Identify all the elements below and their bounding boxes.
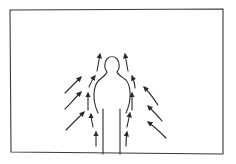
arrow-up-icon	[132, 76, 135, 88]
convection-diagram	[0, 0, 236, 164]
arrow-up-icon	[91, 114, 93, 127]
arrows-outer-right	[144, 87, 166, 138]
arrow-up-icon	[126, 132, 127, 146]
arrow-up-icon	[89, 76, 95, 87]
arrow-up-right-icon	[65, 92, 81, 109]
arrow-up-icon	[97, 54, 100, 71]
arrow-up-left-icon	[148, 122, 166, 138]
diagram-frame	[10, 9, 223, 154]
arrow-up-left-icon	[148, 106, 162, 121]
arrow-up-right-icon	[65, 77, 81, 93]
arrow-up-right-icon	[66, 112, 84, 130]
arrows-outer-left	[65, 77, 84, 130]
arrow-up-icon	[127, 113, 130, 127]
arrow-up-left-icon	[144, 87, 158, 105]
body-outline-left	[94, 57, 130, 113]
arrow-up-icon	[125, 54, 128, 71]
human-silhouette	[94, 57, 130, 154]
